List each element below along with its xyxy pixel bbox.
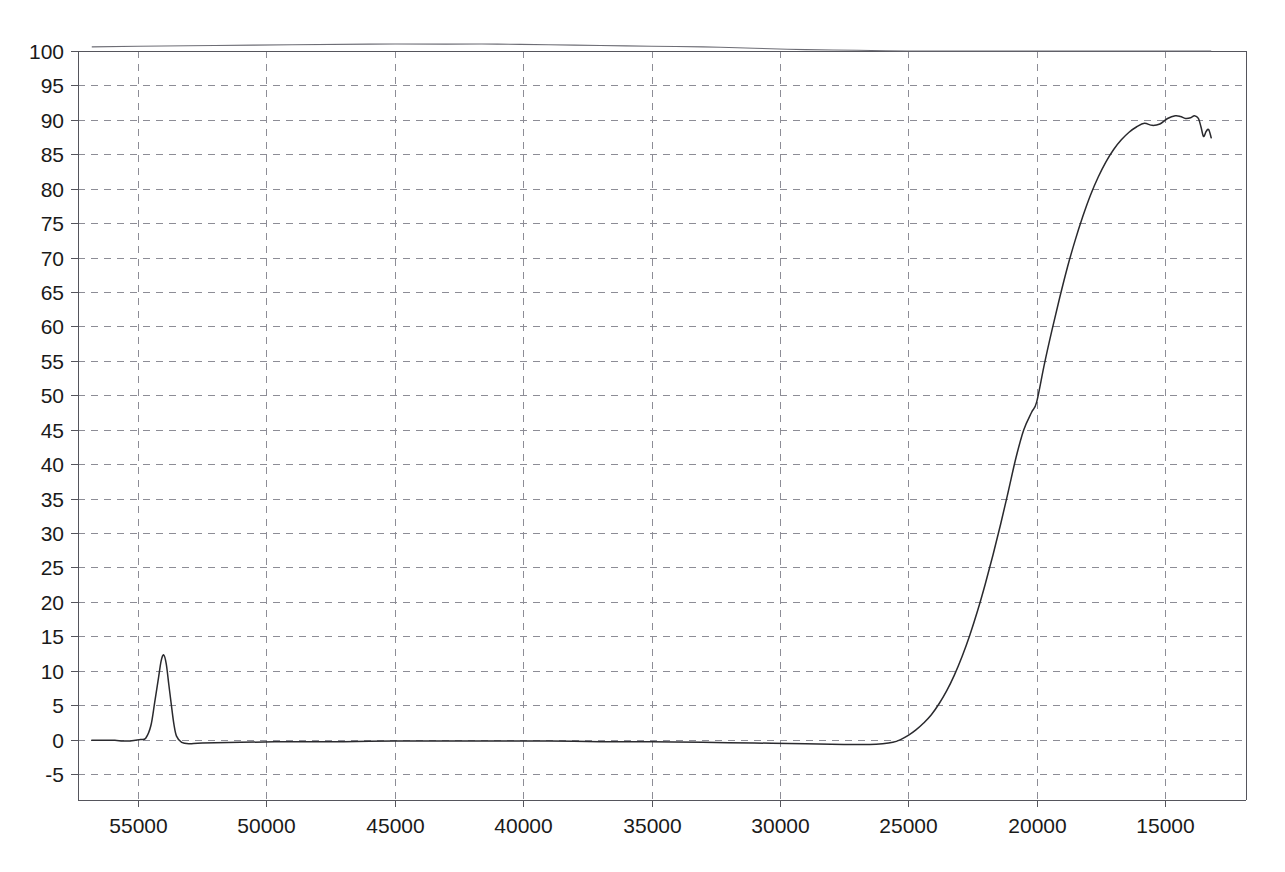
y-tick-label: 75 [41,212,64,235]
y-tick-label: 0 [52,729,64,752]
y-tick-label: 100 [29,40,64,63]
grid-lines-vertical [139,51,1166,800]
plot-frame [78,51,1247,801]
y-tick-label: 35 [41,488,64,511]
y-tick-label: 20 [41,591,64,614]
y-tick-label: 70 [41,247,64,270]
x-tick-label: 50000 [237,814,295,837]
x-tick-label: 15000 [1136,814,1194,837]
x-tick-label: 20000 [1008,814,1066,837]
y-tick-label: 95 [41,74,64,97]
y-tick-label: 15 [41,625,64,648]
y-axis-tick-labels: -505101520253035404550556065707580859095… [29,40,64,786]
y-tick-label: 80 [41,178,64,201]
x-tick-label: 45000 [366,814,424,837]
y-tick-label: 5 [52,694,64,717]
y-tick-label: 60 [41,315,64,338]
x-tick-label: 40000 [494,814,552,837]
data-series-group [92,44,1211,744]
y-tick-label: 45 [41,419,64,442]
x-tick-label: 30000 [751,814,809,837]
spectrum-chart: -505101520253035404550556065707580859095… [0,0,1285,872]
y-tick-label: 40 [41,453,64,476]
y-tick-label: 30 [41,522,64,545]
grid-lines-horizontal [78,52,1246,775]
x-axis-tick-labels: 5500050000450004000035000300002500020000… [109,814,1194,837]
series-reference-baseline [92,44,1211,51]
y-tick-label: 85 [41,143,64,166]
y-tick-label: 55 [41,350,64,373]
x-tick-label: 25000 [879,814,937,837]
y-tick-label: 10 [41,660,64,683]
y-tick-label: -5 [45,763,64,786]
y-tick-label: 65 [41,281,64,304]
x-tick-label: 55000 [109,814,167,837]
y-tick-label: 90 [41,109,64,132]
y-axis-ticks [71,52,78,775]
chart-container: -505101520253035404550556065707580859095… [0,0,1285,872]
y-tick-label: 50 [41,384,64,407]
x-tick-label: 35000 [623,814,681,837]
y-tick-label: 25 [41,556,64,579]
